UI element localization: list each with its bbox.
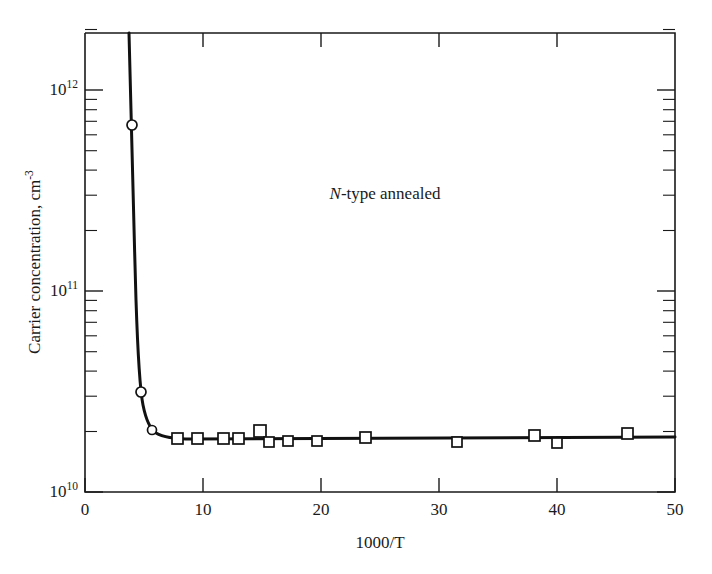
- x-tick-labels: 0 10 20 30 40 50: [81, 500, 684, 519]
- carrier-concentration-plot: 0 10 20 30 40 50 1010 1011 1012 1000/T C…: [0, 0, 712, 574]
- x-tick-label: 40: [549, 500, 566, 519]
- x-axis-ticks-bottom: [85, 478, 675, 492]
- x-axis-ticks-top: [203, 33, 557, 47]
- data-point-square: [622, 428, 633, 439]
- y-tick-label: 1012: [50, 78, 79, 99]
- y-tick-label: 1011: [50, 279, 78, 300]
- data-point-square: [172, 433, 183, 444]
- figure-container: 0 10 20 30 40 50 1010 1011 1012 1000/T C…: [0, 0, 712, 574]
- y-tick-labels: 1010 1011 1012: [50, 78, 79, 501]
- data-point-square: [218, 433, 229, 444]
- y-axis-ticks-right: [657, 30, 675, 493]
- data-point-square: [192, 433, 203, 444]
- x-tick-label: 10: [195, 500, 212, 519]
- x-tick-label: 50: [667, 500, 684, 519]
- data-point-circle: [136, 387, 146, 397]
- data-point-square: [312, 436, 322, 446]
- curve-path: [129, 33, 675, 439]
- y-axis-ticks-left: [85, 30, 103, 493]
- x-tick-label: 20: [313, 500, 330, 519]
- x-tick-label: 0: [81, 500, 90, 519]
- x-tick-label: 30: [431, 500, 448, 519]
- data-point-square: [360, 432, 371, 443]
- data-point-square: [233, 433, 244, 444]
- y-tick-label: 1010: [50, 480, 79, 501]
- data-point-square: [452, 437, 462, 447]
- data-point-square: [529, 430, 540, 441]
- data-series-n-type-annealed: [129, 33, 675, 439]
- data-point-square: [552, 438, 562, 448]
- plot-frame: [85, 33, 675, 492]
- data-point-circle: [127, 120, 137, 130]
- y-axis-title: Carrier concentration, cm-3: [23, 170, 44, 354]
- data-point-circle: [148, 426, 157, 435]
- data-point-square: [254, 425, 266, 437]
- x-axis-title: 1000/T: [355, 533, 405, 552]
- data-point-square: [264, 437, 274, 447]
- annotation-n-type-annealed: N-type annealed: [329, 184, 441, 203]
- data-point-square: [283, 436, 293, 446]
